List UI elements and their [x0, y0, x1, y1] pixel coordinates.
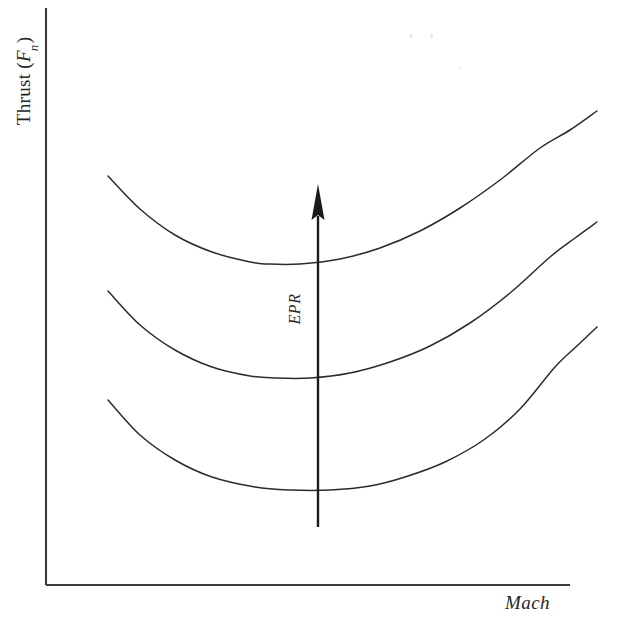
- x-axis-label: Mach: [505, 592, 550, 614]
- y-axis-label-variable: F: [13, 50, 34, 62]
- chart-background: [0, 0, 617, 639]
- y-axis-label: Thrust (Fn): [13, 11, 39, 151]
- y-axis-label-subscript: n: [26, 44, 41, 51]
- epr-arrow-label: EPR: [286, 273, 304, 345]
- y-axis-label-main: Thrust (: [13, 62, 34, 125]
- y-axis-label-close: ): [13, 37, 34, 44]
- thrust-vs-mach-chart: [0, 0, 617, 639]
